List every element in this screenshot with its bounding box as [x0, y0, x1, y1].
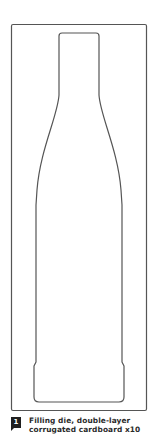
step-number-badge: 1	[11, 417, 21, 428]
outer-board-outline	[12, 25, 147, 411]
filling-die-diagram	[0, 0, 158, 412]
caption-line-1: Filling die, double-layer	[29, 416, 140, 425]
caption-text: Filling die, double-layer corrugated car…	[29, 416, 140, 434]
figure-caption: 1 Filling die, double-layer corrugated c…	[11, 416, 156, 434]
bottle-cutout-outline	[34, 33, 124, 402]
caption-line-2: corrugated cardboard x10	[29, 425, 140, 434]
